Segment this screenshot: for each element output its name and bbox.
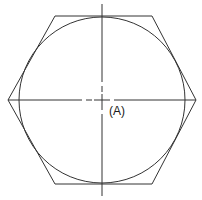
hexagon-circle-diagram (0, 0, 202, 200)
point-label: (A) (109, 104, 125, 118)
